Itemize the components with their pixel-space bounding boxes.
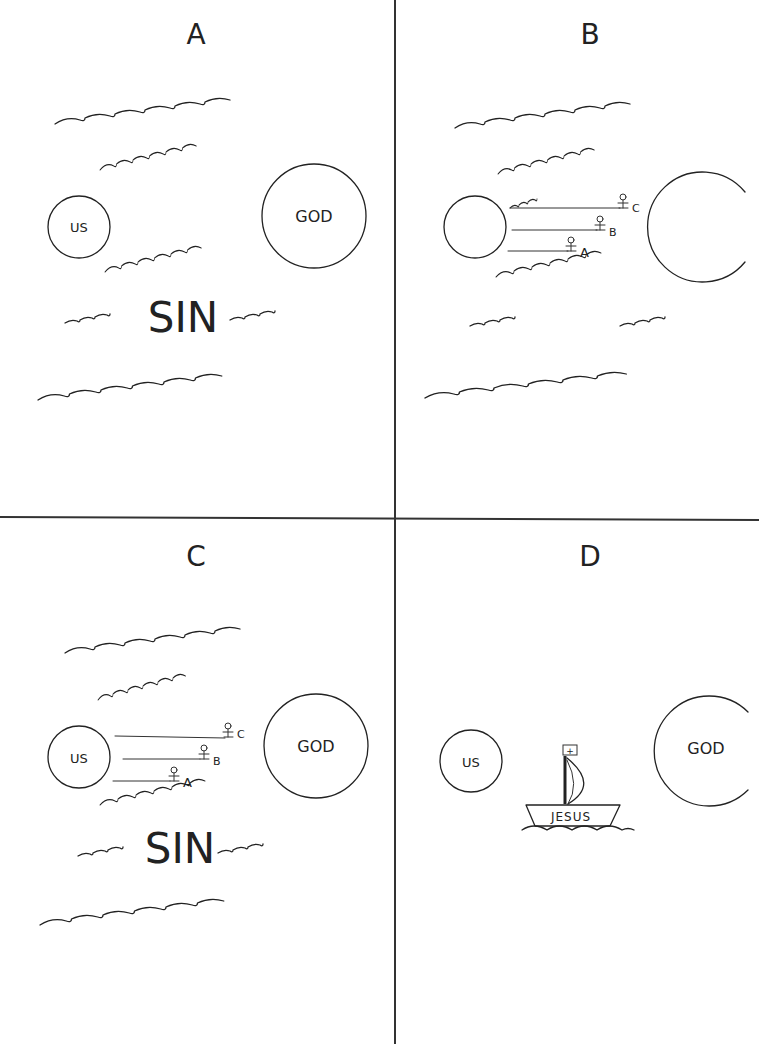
god-circle-partial (648, 172, 745, 282)
svg-text:US: US (70, 751, 88, 766)
svg-text:GOD: GOD (297, 737, 334, 756)
svg-text:B: B (609, 226, 617, 239)
svg-text:+: + (566, 746, 574, 756)
horizontal-divider (0, 517, 759, 520)
us-circle (444, 196, 506, 258)
sin-label: SIN (148, 293, 218, 342)
wave (55, 98, 230, 124)
panel-c: C US GOD C B A SIN (40, 540, 368, 925)
panel-d: D US GOD + JESUS (440, 540, 748, 830)
svg-text:B: B (213, 755, 221, 768)
gospel-bridge-diagram: A US GOD SIN B C B A C (0, 0, 759, 1044)
svg-text:B: B (580, 18, 599, 51)
svg-text:SIN: SIN (145, 824, 215, 873)
svg-text:US: US (70, 220, 88, 235)
svg-text:D: D (579, 540, 601, 573)
svg-text:C: C (237, 728, 245, 741)
svg-text:US: US (462, 755, 480, 770)
svg-text:JESUS: JESUS (550, 810, 591, 824)
boat-icon: + JESUS (522, 745, 634, 830)
panel-a-title: A (186, 18, 205, 51)
svg-text:C: C (632, 202, 640, 215)
panel-b: B C B A (425, 18, 745, 398)
svg-text:C: C (186, 540, 206, 573)
svg-text:GOD: GOD (687, 739, 724, 758)
svg-text:GOD: GOD (295, 207, 332, 226)
panel-a: A US GOD SIN (38, 18, 366, 400)
